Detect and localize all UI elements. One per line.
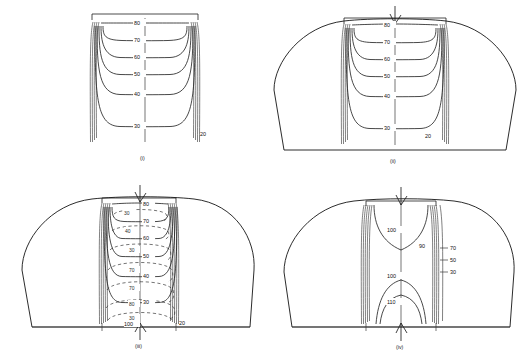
contour-label: 70 [384,39,390,45]
domain-boundary [22,197,254,327]
scale-label: 30 [450,269,456,275]
contour-labels-iii: 80 70 60 50 40 30 [142,200,155,305]
left-fringe-bundle [90,22,99,142]
contour-label: 60 [384,56,390,62]
top-arrow [396,187,407,205]
contour-label: 50 [384,73,390,79]
contour-label: 30 [384,125,390,131]
dashed-label: 70 [129,285,135,291]
edge-label-20: 20 [179,320,185,326]
contour-label: 100 [387,227,396,233]
right-fringe-bundle [191,22,200,142]
domain-boundary [284,199,514,327]
panel-caption: (iii) [135,343,142,349]
contour-labels-iv: 100 90 100 110 [386,226,431,305]
contour-label: 40 [384,93,390,99]
contour-label: 90 [419,243,425,249]
panel-iii-svg: 80 70 60 50 40 30 30 40 30 70 [4,180,262,356]
panel-iv-svg: 100 90 100 110 70 50 30 (iv) [268,180,526,356]
panel-ii: 80 70 60 50 40 30 20 (ii) [262,2,528,170]
panel-iv: 100 90 100 110 70 50 30 (iv) [268,180,526,356]
contour-labels-ii: 80 70 60 50 40 30 [383,21,396,131]
figure-container: 80 70 60 50 40 30 20 (i) [0,0,530,357]
left-fringe-bundle [361,205,372,324]
base-label-100: 100 [124,321,133,327]
contour-label: 40 [143,273,149,279]
top-arrow [135,185,146,202]
dashed-label: 30 [129,247,135,253]
dashed-label: 80 [129,301,135,307]
panel-caption: (iv) [396,344,403,350]
panel-i-svg: 80 70 60 50 40 30 20 (i) [60,2,230,170]
contour-label: 50 [134,71,140,77]
contour-label: 40 [134,91,140,97]
bottom-arrow [396,323,407,341]
dashed-label: 70 [129,267,135,273]
contour-set-iii-solid [104,203,177,303]
panel-i: 80 70 60 50 40 30 20 (i) [60,2,230,170]
dashed-label: 30 [124,210,130,216]
dashed-label: 40 [125,228,131,234]
contour-label: 70 [134,37,140,43]
contour-label: 50 [143,253,149,259]
right-fringe-bundle [430,205,443,324]
contour-label: 70 [143,218,149,224]
panel-iii: 80 70 60 50 40 30 30 40 30 70 [4,180,262,356]
contour-label: 80 [134,20,140,26]
contour-label: 30 [143,299,149,305]
edge-label-20: 20 [200,131,206,137]
contour-label: 80 [143,201,149,207]
scale-label: 50 [450,257,456,263]
scale-label: 70 [450,245,456,251]
left-fringe-bundle [341,24,350,144]
panel-ii-svg: 80 70 60 50 40 30 20 (ii) [262,2,528,170]
contour-label: 110 [387,299,396,305]
contour-label: 100 [387,273,396,279]
contour-label: 80 [384,22,390,28]
contour-label: 60 [134,54,140,60]
contour-set-iii-dashed [106,210,175,321]
contour-labels-i: 80 70 60 50 40 30 [133,19,146,129]
panel-caption: (ii) [390,158,396,164]
right-fringe-bundle [440,24,449,144]
panel-caption: (i) [140,155,145,161]
contour-label: 60 [143,235,149,241]
edge-label-20: 20 [425,133,431,139]
contour-label: 30 [134,123,140,129]
